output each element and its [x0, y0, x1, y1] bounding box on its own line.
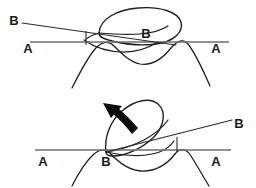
label-lower-b-right: B — [234, 116, 243, 131]
label-upper-a-left: A — [23, 41, 33, 56]
label-lower-b-vertex: B — [101, 154, 110, 169]
label-upper-b-left: B — [9, 13, 18, 28]
label-lower-a-right: A — [211, 154, 221, 169]
label-upper-a-right: A — [211, 41, 221, 56]
figure-root: B A B A A — [0, 0, 256, 188]
label-lower-a-left: A — [38, 154, 48, 169]
diagram-canvas: B A B A A — [0, 0, 256, 188]
label-upper-b-loop: B — [141, 26, 150, 41]
